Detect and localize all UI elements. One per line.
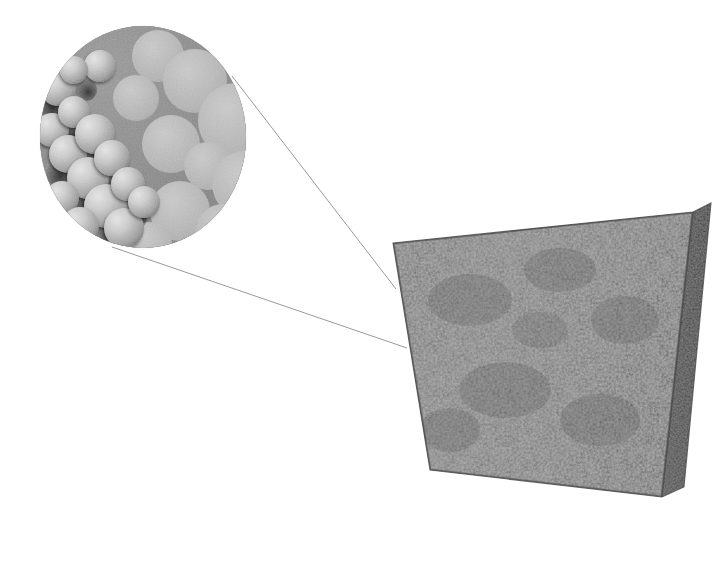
figure-canvas: Rendered porous foam specimen with circu… (0, 0, 725, 566)
pore-hemisphere (128, 186, 160, 218)
block-front-face (393, 212, 693, 497)
magnifier-callout (40, 26, 246, 248)
pore-cross-section (113, 75, 159, 121)
pore-hemisphere (84, 50, 116, 82)
pore-cross-section (196, 204, 246, 248)
pore-hemisphere (61, 207, 99, 245)
pore-hemisphere (60, 56, 88, 84)
